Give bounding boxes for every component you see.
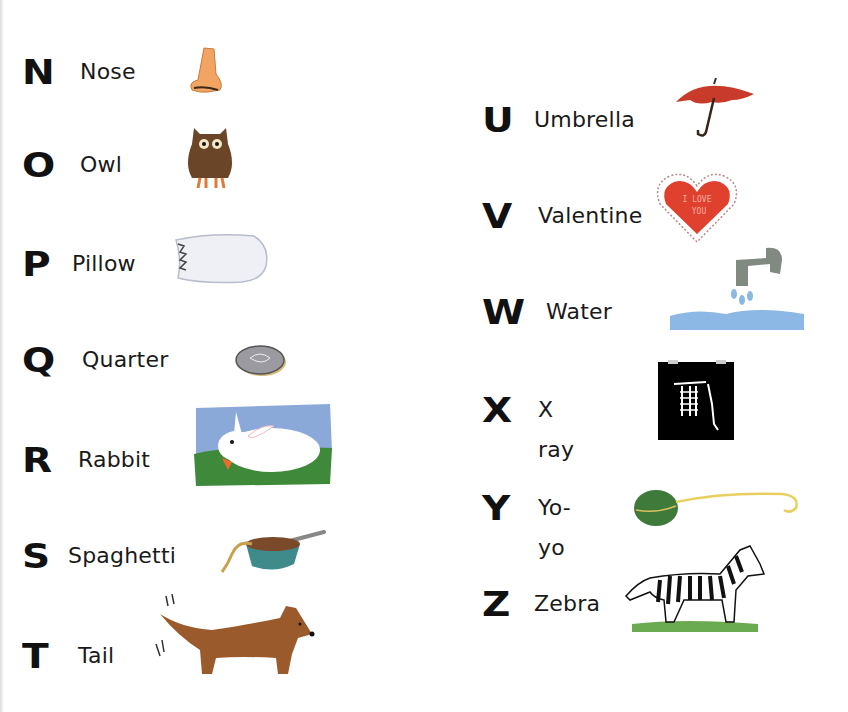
- word-pillow: Pillow: [72, 244, 136, 284]
- dog-icon: [152, 594, 318, 678]
- coin-icon: [232, 342, 292, 378]
- word-umbrella: Umbrella: [534, 100, 635, 140]
- letter-n: N: [22, 52, 55, 92]
- umbrella-icon: [672, 74, 760, 142]
- faucet-icon: [666, 244, 808, 334]
- letter-p: P: [22, 244, 51, 284]
- pillow-icon: [172, 232, 272, 286]
- word-quarter: Quarter: [82, 340, 168, 380]
- word-valentine: Valentine: [538, 196, 642, 236]
- owl-icon: [184, 124, 236, 192]
- page-edge-shadow: [0, 0, 4, 712]
- spaghetti-bowl-icon: [218, 530, 328, 576]
- letter-w: W: [482, 292, 525, 332]
- yoyo-icon: [632, 484, 804, 530]
- letter-r: R: [22, 440, 52, 480]
- valentine-line-2: YOU: [692, 207, 707, 216]
- letter-z: Z: [482, 584, 510, 624]
- letter-t: T: [22, 636, 49, 676]
- word-xray: X ray: [538, 390, 574, 470]
- letter-o: O: [22, 145, 55, 185]
- word-rabbit: Rabbit: [78, 440, 150, 480]
- rabbit-icon: [192, 404, 334, 488]
- word-nose: Nose: [80, 52, 136, 92]
- word-tail: Tail: [78, 636, 114, 676]
- letter-u: U: [482, 100, 514, 140]
- nose-icon: [186, 46, 226, 96]
- letter-v: V: [482, 196, 512, 236]
- word-water: Water: [546, 292, 612, 332]
- xray-icon: [656, 360, 736, 442]
- letter-y: Y: [482, 488, 510, 528]
- word-spaghetti: Spaghetti: [68, 536, 176, 576]
- word-zebra: Zebra: [534, 584, 600, 624]
- heart-icon: I LOVE YOU: [656, 170, 738, 244]
- zebra-icon: [624, 542, 768, 634]
- letter-s: S: [22, 536, 50, 576]
- word-yoyo: Yo-yo: [538, 488, 571, 568]
- letter-x: X: [482, 390, 512, 430]
- letter-q: Q: [22, 340, 55, 380]
- valentine-line-1: I LOVE: [683, 195, 712, 204]
- word-owl: Owl: [80, 145, 122, 185]
